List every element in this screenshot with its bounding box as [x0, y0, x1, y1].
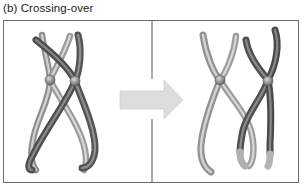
centromere-dark-after [263, 76, 273, 86]
centromere-light-after [215, 75, 225, 85]
light-chromosome-recombined [201, 35, 254, 172]
right-arrow-icon [120, 80, 183, 119]
crossing-over-diagram [0, 0, 303, 188]
panel-before [29, 35, 95, 170]
centromere-dark [70, 76, 80, 86]
panel-after [201, 30, 277, 172]
centromere-light [45, 75, 55, 85]
dark-chromosome-recombined [240, 30, 277, 166]
